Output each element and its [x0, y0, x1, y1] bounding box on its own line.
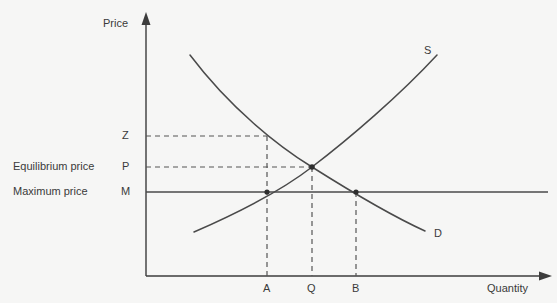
price-tick-z: Z	[122, 130, 129, 141]
x-axis	[146, 272, 552, 281]
demand-curve	[190, 55, 425, 231]
point-demand-at-max-price	[353, 189, 358, 194]
y-axis	[142, 12, 151, 276]
quantity-tick-a: A	[263, 283, 270, 294]
price-tick-p: P	[122, 161, 129, 172]
x-axis-label: Quantity	[487, 283, 528, 294]
point-supply-at-max-price	[264, 189, 269, 194]
quantity-tick-q: Q	[307, 283, 316, 294]
demand-curve-label: D	[434, 228, 442, 239]
supply-demand-diagram: Price Quantity Equilibrium price Maximum…	[0, 0, 557, 303]
supply-curve	[194, 55, 437, 232]
maximum-price-label: Maximum price	[13, 186, 88, 197]
chart-canvas	[0, 0, 557, 303]
point-equilibrium	[309, 164, 315, 170]
quantity-tick-b: B	[352, 283, 359, 294]
supply-curve-label: S	[424, 45, 431, 56]
price-tick-m: M	[121, 186, 130, 197]
y-axis-label: Price	[103, 18, 128, 29]
equilibrium-price-label: Equilibrium price	[13, 161, 94, 172]
